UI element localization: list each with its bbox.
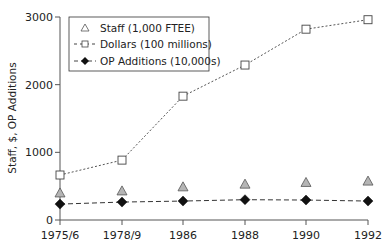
data-point-triangle: [117, 186, 127, 195]
x-tick-label: 1992: [354, 229, 382, 242]
x-tick-label: 1975/6: [41, 229, 80, 242]
y-tick-label: 1000: [25, 146, 53, 159]
series-staff: [55, 176, 373, 197]
legend-label: Dollars (100 millions): [100, 38, 212, 50]
data-point-filled-diamond: [55, 199, 65, 209]
data-point-triangle: [301, 177, 311, 186]
y-tick-label: 3000: [25, 11, 53, 24]
data-point-filled-diamond: [178, 196, 188, 206]
y-axis: 0100020003000: [25, 11, 60, 227]
legend-label: Staff (1,000 FTEE): [100, 22, 195, 34]
x-tick-label: 1990: [292, 229, 320, 242]
data-point-filled-diamond: [117, 197, 127, 207]
line-chart: 0100020003000 1975/61978/919861988199019…: [0, 0, 391, 252]
y-tick-label: 0: [46, 214, 53, 227]
legend-label: OP Additions (10,000s): [100, 55, 221, 67]
y-tick-label: 2000: [25, 79, 53, 92]
x-axis: 1975/61978/91986198819901992: [41, 220, 382, 242]
data-point-filled-diamond: [240, 195, 250, 205]
legend-square-icon: [82, 41, 88, 47]
series-op-additions: [55, 195, 373, 209]
data-point-filled-diamond: [301, 195, 311, 205]
legend: Staff (1,000 FTEE)Dollars (100 millions)…: [69, 17, 221, 71]
data-point-triangle: [55, 188, 65, 197]
data-point-filled-diamond: [363, 196, 373, 206]
data-point-open-square: [241, 61, 249, 69]
data-point-triangle: [363, 176, 373, 185]
data-point-open-square: [56, 171, 64, 179]
data-point-open-square: [302, 25, 310, 33]
data-point-triangle: [178, 182, 188, 191]
data-point-open-square: [364, 16, 372, 24]
data-point-open-square: [118, 156, 126, 164]
x-tick-label: 1978/9: [103, 229, 142, 242]
data-point-triangle: [240, 179, 250, 188]
y-axis-label: Staff, $, OP Additions: [6, 62, 18, 173]
x-tick-label: 1986: [169, 229, 197, 242]
data-point-open-square: [179, 92, 187, 100]
x-tick-label: 1988: [231, 229, 259, 242]
